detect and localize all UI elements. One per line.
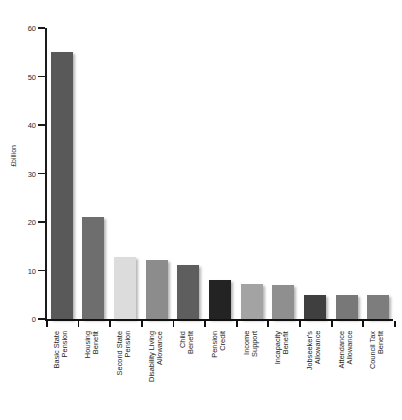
x-axis-label: Second State Pension [116,331,133,375]
y-axis-tick-label: 20 [16,218,36,227]
y-axis-tick-label: 30 [16,169,36,178]
bar [209,280,231,319]
x-axis-tick [78,321,80,327]
y-axis-tick-label: 10 [16,266,36,275]
x-axis-tick [46,321,48,327]
x-axis-tick [362,321,364,327]
x-axis-tick [173,321,175,327]
x-axis-line [45,319,393,321]
x-axis-tick [267,321,269,327]
y-axis-tick [38,27,45,28]
x-axis-label: Pension Credit [211,331,228,358]
x-axis-label: Child Benefit [179,331,196,354]
y-axis-tick [38,124,45,125]
bar [51,52,73,319]
y-axis-tick-label: 50 [16,72,36,81]
x-axis-label: Jobseeker's Allowance [306,331,323,370]
x-axis-label: Basic State Pension [53,331,70,368]
y-axis-tick-label: 40 [16,121,36,130]
bar [367,295,389,319]
y-axis-tick-label: 0 [16,315,36,324]
y-axis-line [45,28,47,320]
x-axis-label: Income Support [243,331,260,357]
x-axis-tick [394,321,396,327]
y-axis-tick [38,76,45,77]
x-axis-tick [109,321,111,327]
y-axis-tick [38,270,45,271]
x-axis-label: Attendance Allowance [338,331,355,368]
y-axis-tick [38,221,45,222]
x-axis-tick [331,321,333,327]
bar [304,295,326,319]
bar [272,285,294,319]
x-axis-label: Housing Benefit [84,331,101,358]
y-axis-title: £billion [10,145,24,167]
x-axis-tick [141,321,143,327]
bar [336,295,358,319]
x-axis-tick [204,321,206,327]
y-axis-tick [38,173,45,174]
y-axis-tick-label: 60 [16,24,36,33]
x-axis-tick [236,321,238,327]
bar [241,284,263,319]
bar [146,260,168,319]
bar-chart-figure: £billion 0102030405060 Basic State Pensi… [0,0,402,420]
x-axis-label: Council Tax Benefit [369,331,386,369]
bar [114,257,136,319]
bar [177,265,199,319]
x-axis-label: Incapacity Benefit [274,331,291,364]
x-axis-tick [299,321,301,327]
x-axis-label: Disability Living Allowance [148,331,165,382]
y-axis-tick [38,318,45,319]
bar [82,217,104,319]
